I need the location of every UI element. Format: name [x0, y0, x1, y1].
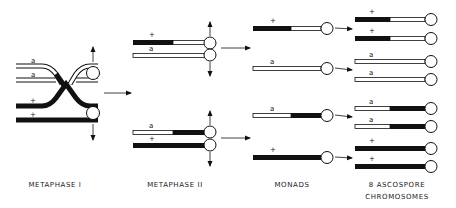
svg-text:a: a: [369, 51, 373, 59]
ascospores-group: + + a a a a + +: [355, 8, 437, 173]
monads-group: + a a +: [253, 17, 333, 164]
svg-text:a: a: [31, 57, 35, 65]
svg-text:+: +: [30, 111, 36, 119]
svg-text:a: a: [270, 105, 274, 113]
chromatid-plus-1: [16, 84, 98, 106]
svg-text:+: +: [369, 137, 375, 145]
svg-text:a: a: [369, 116, 373, 124]
meiosis-diagram: a a + + + a a + +: [0, 0, 456, 208]
svg-text:+: +: [149, 135, 155, 143]
svg-text:a: a: [31, 71, 35, 79]
metaphase-2-group: + a a +: [133, 22, 216, 166]
label-ascospore-chromosomes: 8 ASCOSPORE CHROMOSOMES: [352, 179, 442, 203]
metaphase-1-group: a a + +: [16, 47, 100, 140]
svg-text:+: +: [270, 17, 276, 25]
svg-text:a: a: [149, 45, 153, 53]
svg-text:a: a: [369, 69, 373, 77]
svg-text:+: +: [270, 146, 276, 154]
svg-text:+: +: [369, 27, 375, 35]
svg-text:a: a: [270, 58, 274, 66]
label-metaphase-1: METAPHASE I: [20, 179, 90, 191]
svg-text:+: +: [149, 31, 155, 39]
svg-text:+: +: [369, 8, 375, 16]
centromere-bottom: [87, 107, 100, 120]
arrows-monads-to-ascospores: [335, 28, 352, 158]
label-metaphase-2: METAPHASE II: [135, 179, 215, 191]
svg-text:+: +: [30, 97, 36, 105]
label-monads: MONADS: [262, 179, 322, 191]
centromere-top: [87, 67, 100, 80]
svg-text:+: +: [369, 155, 375, 163]
svg-text:a: a: [149, 122, 153, 130]
svg-text:a: a: [369, 98, 373, 106]
